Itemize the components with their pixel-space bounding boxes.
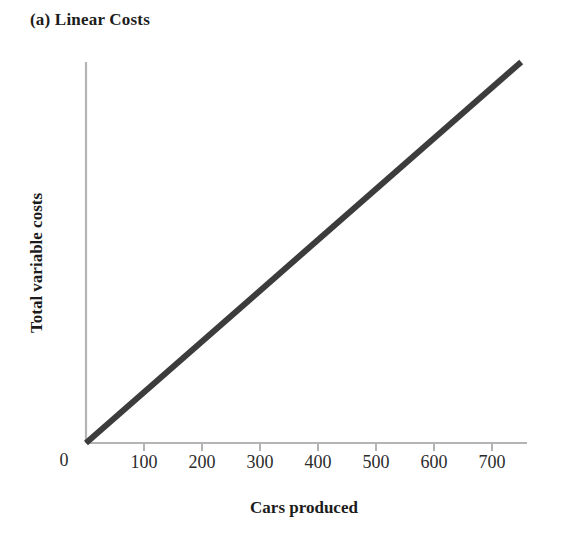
x-axis-ticks (144, 443, 492, 451)
x-tick-label-700: 700 (462, 452, 522, 473)
x-tick-label-500: 500 (346, 452, 406, 473)
x-tick-label-100: 100 (114, 452, 174, 473)
x-tick-label-200: 200 (172, 452, 232, 473)
figure-panel: (a) Linear Costs Total variable costs Ca… (0, 0, 564, 552)
x-tick-label-300: 300 (230, 452, 290, 473)
x-axis-label: Cars produced (86, 498, 522, 518)
origin-tick-label: 0 (52, 450, 76, 471)
y-axis-label: Total variable costs (24, 158, 50, 368)
x-tick-label-600: 600 (404, 452, 464, 473)
x-tick-label-400: 400 (288, 452, 348, 473)
data-series-line (86, 62, 521, 443)
